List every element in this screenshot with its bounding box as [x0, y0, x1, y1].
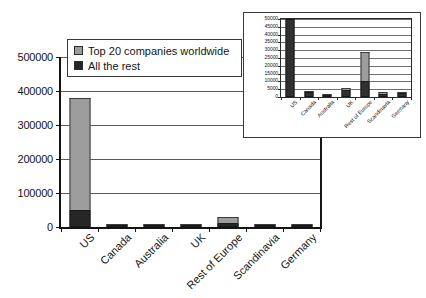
legend-label-all-the-rest: All the rest: [88, 60, 140, 72]
legend-item-top20: Top 20 companies worldwide: [74, 45, 235, 57]
bar-segment-top20: [69, 98, 90, 210]
bar-group: [281, 19, 300, 97]
y-axis-tick-label: 300000: [17, 120, 53, 131]
bar-group: [355, 19, 374, 97]
inset-chart-plot-area: [280, 18, 412, 98]
bar-segment-all-the-rest: [217, 223, 238, 227]
bar-segment-all-the-rest: [254, 225, 275, 227]
legend-swatch-gray: [74, 46, 83, 55]
stacked-bar: [254, 224, 275, 227]
bar-group: [135, 57, 172, 227]
bar-segment-all-the-rest: [286, 19, 295, 97]
bar-group: [61, 57, 98, 227]
bar-group: [337, 19, 356, 97]
y-axis-tick-label: 200000: [17, 154, 53, 165]
bar-segment-all-the-rest: [106, 225, 127, 227]
x-axis-category-label: US: [289, 99, 299, 109]
stacked-bar: [106, 224, 127, 227]
bar-segment-all-the-rest: [341, 90, 350, 97]
bar-segment-all-the-rest: [69, 210, 90, 227]
bar-segment-all-the-rest: [291, 225, 312, 227]
bar-segment-all-the-rest: [143, 225, 164, 227]
main-chart-x-axis-labels: USCanadaAustraliaUKRest of EuropeScandin…: [59, 231, 322, 298]
x-axis-category-label: UK: [345, 99, 355, 109]
main-chart-y-axis-labels: 0100000200000300000400000500000: [0, 57, 53, 229]
legend-item-all-the-rest: All the rest: [74, 60, 235, 72]
stacked-bar: [304, 91, 313, 97]
inset-chart-y-axis-labels: 0500010000150002000025000300003500040000…: [244, 18, 278, 98]
x-axis-category-label: US: [77, 231, 96, 250]
bar-group: [172, 57, 209, 227]
x-axis-category-label: Australia: [316, 99, 335, 118]
stacked-bar: [397, 92, 406, 97]
bar-segment-all-the-rest: [304, 92, 313, 97]
y-axis-tick-label: 0: [47, 222, 53, 233]
y-axis-tick-label: 500000: [17, 52, 53, 63]
bar-segment-all-the-rest: [379, 94, 388, 97]
y-axis-tick-label: 40000: [265, 31, 278, 36]
y-axis-tick-label: 10000: [265, 78, 278, 83]
bar-group: [374, 19, 393, 97]
stacked-bar: [341, 88, 350, 98]
y-axis-tick-label: 400000: [17, 86, 53, 97]
x-axis-category-label: Germany: [278, 231, 318, 271]
stacked-bar: [291, 224, 312, 227]
y-axis-tick-label: 20000: [265, 62, 278, 67]
y-axis-tick-label: 15000: [265, 70, 278, 75]
x-axis-category-label: UK: [188, 231, 207, 250]
bar-group: [98, 57, 135, 227]
chart-legend: Top 20 companies worldwide All the rest: [67, 39, 242, 77]
stacked-bar: [286, 19, 295, 97]
bar-group: [209, 57, 246, 227]
legend-label-top20: Top 20 companies worldwide: [88, 45, 229, 57]
stacked-bar: [323, 94, 332, 97]
stacked-bar: [143, 224, 164, 227]
bar-segment-top20: [360, 52, 369, 81]
x-axis-category-label: Canada: [97, 231, 133, 267]
stacked-bar: [360, 52, 369, 97]
y-axis-tick-label: 25000: [265, 55, 278, 60]
inset-chart-x-axis-labels: USCanadaAustraliaUKRest of EuropeScandin…: [280, 99, 412, 137]
x-axis-category-label: Germany: [390, 99, 410, 119]
bar-segment-all-the-rest: [180, 225, 201, 227]
y-axis-tick-label: 50000: [265, 16, 278, 21]
x-axis-category-label: Australia: [131, 231, 170, 270]
y-axis-tick-label: 100000: [17, 188, 53, 199]
x-axis-category-label: Canada: [299, 99, 317, 117]
y-axis-tick-label: 45000: [265, 23, 278, 28]
legend-swatch-dark: [74, 61, 83, 70]
y-axis-tick-label: 5000: [267, 86, 278, 91]
bar-segment-all-the-rest: [323, 95, 332, 97]
y-axis-tick-label: 30000: [265, 47, 278, 52]
stacked-bar: [379, 92, 388, 97]
stacked-bar: [180, 224, 201, 227]
bar-segment-all-the-rest: [397, 93, 406, 97]
bar-group: [318, 19, 337, 97]
bar-group: [392, 19, 411, 97]
stacked-bar: [69, 98, 90, 227]
stacked-bar: [217, 217, 238, 227]
inset-bar-chart: 0500010000150002000025000300003500040000…: [243, 12, 421, 138]
y-axis-tick-label: 35000: [265, 39, 278, 44]
bar-group: [300, 19, 319, 97]
bar-segment-all-the-rest: [360, 81, 369, 97]
